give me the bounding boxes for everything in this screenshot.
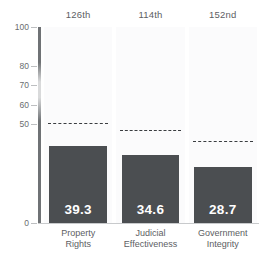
- reference-line: [120, 130, 180, 131]
- y-axis-tick-mark: [31, 27, 37, 28]
- y-axis-tick: 70: [0, 79, 38, 91]
- bar-value-label: 34.6: [122, 202, 179, 217]
- plot-area: 39.3 34.6 28.7: [42, 27, 259, 223]
- rank-label: 126th: [42, 4, 114, 26]
- category-label-line: Integrity: [188, 239, 258, 250]
- y-axis-tick-label: 70: [20, 79, 29, 91]
- reference-line: [48, 123, 108, 124]
- y-axis-tick-label: 80: [20, 60, 29, 72]
- bar[interactable]: 34.6: [122, 155, 179, 223]
- category-label: Government Integrity: [187, 226, 259, 258]
- y-axis-line: [38, 27, 41, 223]
- category-label-row: Property Rights Judicial Effectiveness G…: [42, 226, 259, 258]
- bar-value-label: 39.3: [49, 202, 106, 217]
- y-axis-tick-label: 50: [20, 118, 29, 130]
- y-axis-tick-mark: [31, 124, 37, 125]
- y-axis-tick-label: 60: [20, 99, 29, 111]
- bar[interactable]: 39.3: [49, 146, 106, 223]
- rank-label-row: 126th 114th 152nd: [42, 4, 259, 26]
- category-label-line: Effectiveness: [115, 239, 185, 250]
- y-axis-tick: 80: [0, 60, 38, 72]
- y-axis-tick-mark: [31, 223, 37, 224]
- category-label: Judicial Effectiveness: [114, 226, 186, 258]
- y-axis-tick: 50: [0, 118, 38, 130]
- bar-value-label: 28.7: [194, 202, 251, 217]
- y-axis-tick: 0: [0, 217, 38, 229]
- y-axis-tick-label: 100: [15, 21, 29, 33]
- bar[interactable]: 28.7: [194, 167, 251, 223]
- category-label-line: Rights: [43, 239, 113, 250]
- category-label-line: Judicial: [115, 228, 185, 239]
- bar-slot: 28.7: [189, 27, 257, 223]
- category-label-line: Government: [188, 228, 258, 239]
- y-axis-labels: 100 80 70 60 50 0: [0, 0, 38, 260]
- y-axis-tick: 60: [0, 99, 38, 111]
- bar-slot: 39.3: [44, 27, 112, 223]
- y-axis-tick: 100: [0, 21, 38, 33]
- y-axis-tick-mark: [31, 66, 37, 67]
- rank-label: 152nd: [187, 4, 259, 26]
- bar-group: 39.3 34.6 28.7: [42, 27, 259, 223]
- y-axis-tick-label: 0: [24, 217, 29, 229]
- rank-label: 114th: [114, 4, 186, 26]
- reference-line: [193, 141, 253, 142]
- bar-slot: 34.6: [116, 27, 184, 223]
- x-axis-baseline: [38, 223, 259, 224]
- category-label: Property Rights: [42, 226, 114, 258]
- category-label-line: Property: [43, 228, 113, 239]
- y-axis-tick-mark: [31, 85, 37, 86]
- y-axis-tick-mark: [31, 105, 37, 106]
- bar-chart: 126th 114th 152nd 100 80 70 60 50 0: [0, 0, 259, 260]
